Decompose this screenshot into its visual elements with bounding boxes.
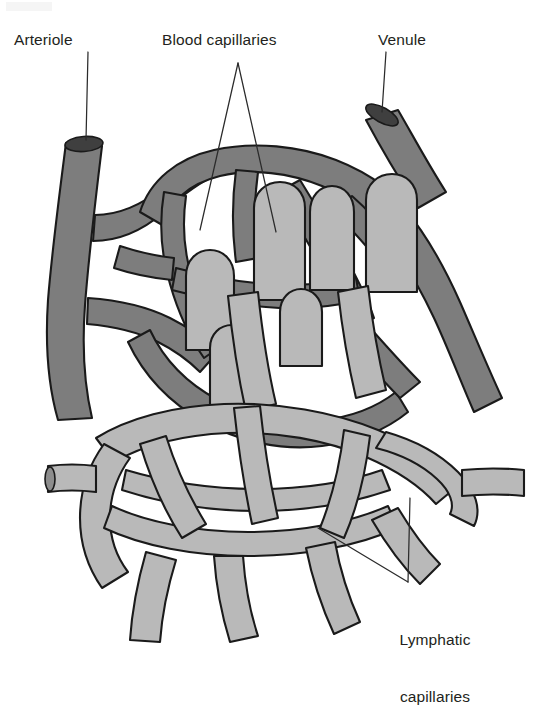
- lymphatic-limb-bottom-far-right: [372, 508, 440, 584]
- lymphatic-branch-right: [462, 469, 524, 497]
- lymphatic-limb-bottom-left: [130, 552, 176, 642]
- lymphatic-blind-tip-2: [310, 186, 354, 290]
- lymphatic-blind-tip-5: [280, 289, 322, 366]
- label-arteriole: Arteriole: [14, 30, 73, 49]
- lymphatic-lumen-left: [45, 467, 55, 491]
- leader-line-venule: [382, 52, 386, 112]
- arteriole-vessel: [47, 143, 102, 420]
- label-lymphatic-line1: Lymphatic: [360, 630, 510, 649]
- label-blood-capillaries: Blood capillaries: [162, 30, 277, 49]
- lymphatic-blind-tip-1: [254, 182, 305, 300]
- label-lymphatic-capillaries: Lymphatic capillaries: [360, 592, 510, 709]
- leader-line-arteriole: [86, 52, 88, 140]
- lymphatic-capillary-network: [45, 174, 524, 642]
- lymphatic-limb-bottom-center: [214, 556, 258, 642]
- label-lymphatic-line2: capillaries: [360, 687, 510, 706]
- lymphatic-limb-bottom-right: [306, 542, 360, 634]
- lymphatic-blind-tip-3: [366, 174, 417, 292]
- label-venule: Venule: [378, 30, 426, 49]
